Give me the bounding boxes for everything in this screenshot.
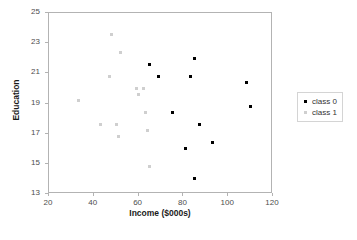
data-point-class-0 [193, 177, 196, 180]
x-tick-label: 120 [260, 198, 284, 207]
data-point-class-0 [148, 63, 151, 66]
data-point-class-1 [119, 51, 122, 54]
x-axis-title: Income ($000s) [48, 208, 272, 218]
legend: class 0 class 1 [297, 92, 343, 122]
data-point-class-0 [184, 147, 187, 150]
data-point-class-0 [157, 75, 160, 78]
x-tick-mark [272, 193, 273, 196]
x-tick-label: 20 [36, 198, 60, 207]
x-tick-mark [48, 193, 49, 196]
y-tick-label: 15 [22, 158, 40, 167]
x-tick-label: 100 [215, 198, 239, 207]
data-point-class-1 [146, 129, 149, 132]
legend-marker-class-1-icon [301, 108, 310, 117]
data-point-class-1 [110, 33, 113, 36]
data-point-class-1 [144, 111, 147, 114]
x-tick-mark [182, 193, 183, 196]
y-tick-label: 21 [22, 67, 40, 76]
x-tick-label: 80 [170, 198, 194, 207]
data-point-class-0 [249, 105, 252, 108]
x-tick-mark [227, 193, 228, 196]
scatter-chart: Education Income ($000s) 13151719212325 … [0, 0, 357, 240]
data-point-class-0 [189, 75, 192, 78]
x-tick-label: 60 [126, 198, 150, 207]
data-point-class-1 [115, 123, 118, 126]
y-tick-label: 13 [22, 188, 40, 197]
y-tick-label: 17 [22, 128, 40, 137]
x-tick-label: 40 [81, 198, 105, 207]
y-tick-label: 25 [22, 7, 40, 16]
data-point-class-1 [99, 123, 102, 126]
plot-area [48, 12, 272, 193]
data-point-class-0 [245, 81, 248, 84]
data-point-class-1 [137, 93, 140, 96]
data-points-layer [49, 13, 271, 192]
data-point-class-0 [198, 123, 201, 126]
legend-label-class-0: class 0 [310, 97, 337, 106]
legend-item-class-0: class 0 [301, 96, 337, 107]
data-point-class-1 [108, 75, 111, 78]
data-point-class-1 [135, 87, 138, 90]
y-tick-label: 23 [22, 37, 40, 46]
y-axis-title: Education [11, 65, 21, 135]
legend-item-class-1: class 1 [301, 107, 337, 118]
data-point-class-1 [142, 87, 145, 90]
data-point-class-0 [193, 57, 196, 60]
legend-label-class-1: class 1 [310, 108, 337, 117]
data-point-class-1 [77, 99, 80, 102]
x-tick-mark [93, 193, 94, 196]
data-point-class-1 [117, 135, 120, 138]
x-tick-mark [138, 193, 139, 196]
y-tick-label: 19 [22, 98, 40, 107]
data-point-class-0 [211, 141, 214, 144]
data-point-class-0 [171, 111, 174, 114]
data-point-class-1 [148, 165, 151, 168]
legend-marker-class-0-icon [301, 97, 310, 106]
